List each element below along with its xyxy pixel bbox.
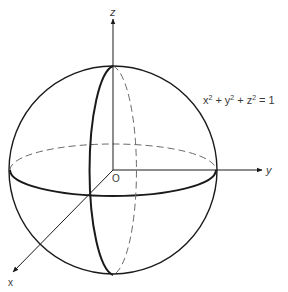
sphere-equation: x2+y2+z2=1 — [203, 94, 275, 106]
y-axis-label: y — [265, 164, 273, 176]
sphere-diagram: z y x O x2+y2+z2=1 — [0, 0, 288, 292]
x-axis-label: x — [8, 277, 13, 288]
meridian-front — [90, 66, 113, 275]
z-axis-label: z — [109, 6, 116, 18]
origin-label: O — [112, 173, 120, 184]
svg-text:x2+y2+z2=1: x2+y2+z2=1 — [203, 94, 275, 106]
